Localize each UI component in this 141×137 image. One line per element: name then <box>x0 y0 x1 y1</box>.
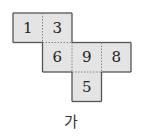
net-face-6: 6 <box>43 43 73 73</box>
face-label: 6 <box>52 48 62 66</box>
net-face-5: 5 <box>72 72 102 102</box>
face-label: 8 <box>111 48 121 66</box>
net-face-1: 1 <box>13 13 43 43</box>
net-face-9: 9 <box>72 43 102 73</box>
net-face-8: 8 <box>102 43 132 73</box>
figure-caption: 가 <box>0 110 141 131</box>
face-label: 9 <box>82 48 92 66</box>
face-label: 3 <box>52 19 62 37</box>
net-face-3: 3 <box>43 13 73 43</box>
face-label: 1 <box>23 19 33 37</box>
face-label: 5 <box>82 78 92 96</box>
